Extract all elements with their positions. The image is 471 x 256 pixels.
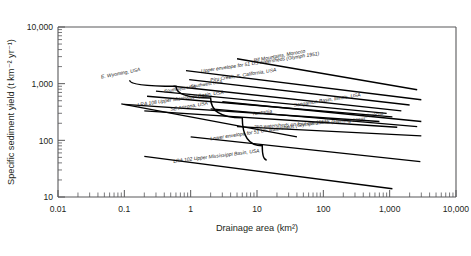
- x-tick-label: 10: [252, 204, 262, 214]
- x-tick-label: 1,000: [379, 204, 401, 214]
- sediment-yield-log-log-plot: 101001,00010,0000.010.11101001,00010,000…: [0, 0, 471, 256]
- x-tick-label: 100: [316, 204, 331, 214]
- y-tick-label: 10,000: [27, 22, 54, 32]
- x-tick-label: 1: [188, 204, 193, 214]
- y-tick-label: 10: [43, 192, 53, 202]
- x-tick-label: 10,000: [443, 204, 470, 214]
- x-tick-label: 0.01: [50, 204, 67, 214]
- y-tick-label: 1,000: [31, 79, 53, 89]
- chart-figure: 101001,00010,0000.010.11101001,00010,000…: [0, 0, 471, 256]
- x-tick-label: 0.1: [118, 204, 130, 214]
- plot-background: [0, 0, 471, 256]
- y-axis-title: Specific sediment yield (t km⁻² yr⁻¹): [6, 39, 16, 185]
- x-axis-title: Drainage area (km²): [216, 223, 298, 233]
- y-tick-label: 100: [39, 136, 54, 146]
